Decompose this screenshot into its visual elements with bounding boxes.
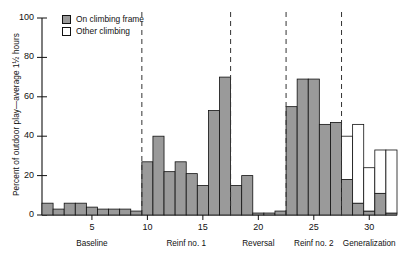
bar-on-climbing-frame [253,213,264,215]
bar-on-climbing-frame [53,209,64,215]
bar-on-climbing-frame [364,211,375,215]
phase-label: Generalization [309,239,405,248]
y-tick-label: 20 [10,170,34,180]
bar-other-climbing [353,124,364,203]
bar-on-climbing-frame [375,193,386,215]
y-tick-label: 100 [10,12,34,22]
bar-on-climbing-frame [86,207,97,215]
bar-on-climbing-frame [286,107,297,215]
bar-on-climbing-frame [109,209,120,215]
bar-on-climbing-frame [297,79,308,215]
bar-on-climbing-frame [208,111,219,215]
y-tick-label: 60 [10,91,34,101]
bar-on-climbing-frame [120,209,131,215]
bar-on-climbing-frame [153,136,164,215]
bar-on-climbing-frame [64,203,75,215]
bar-on-climbing-frame [186,174,197,215]
x-tick-label: 20 [243,222,273,232]
bar-on-climbing-frame [342,180,353,215]
bar-on-climbing-frame [231,185,242,215]
bar-on-climbing-frame [242,176,253,215]
bar-on-climbing-frame [264,213,275,215]
bar-on-climbing-frame [142,162,153,215]
bar-other-climbing [375,150,386,193]
bar-on-climbing-frame [97,209,108,215]
bar-on-climbing-frame [220,77,231,215]
bar-on-climbing-frame [353,203,364,215]
bar-other-climbing [386,150,397,213]
x-tick-label: 30 [354,222,384,232]
bar-on-climbing-frame [197,185,208,215]
bar-other-climbing [342,136,353,179]
bar-on-climbing-frame [308,79,319,215]
bar-on-climbing-frame [131,211,142,215]
bar-on-climbing-frame [330,122,341,215]
bar-on-climbing-frame [75,203,86,215]
x-tick-label: 5 [77,222,107,232]
x-tick-label: 15 [188,222,218,232]
x-tick-label: 25 [299,222,329,232]
bar-chart: Percent of outdoor play—average 1½ hours… [0,0,405,263]
bar-on-climbing-frame [42,203,53,215]
y-tick-label: 80 [10,51,34,61]
bar-on-climbing-frame [275,211,286,215]
bar-on-climbing-frame [164,172,175,215]
y-tick-label: 0 [10,209,34,219]
bar-on-climbing-frame [319,124,330,215]
x-tick-label: 10 [132,222,162,232]
bar-other-climbing [364,168,375,211]
y-tick-label: 40 [10,130,34,140]
bar-on-climbing-frame [175,162,186,215]
